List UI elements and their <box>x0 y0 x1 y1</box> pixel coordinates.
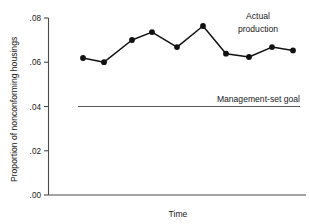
data-point <box>149 29 155 35</box>
y-tick-label-04: .04 <box>30 103 42 112</box>
y-tick-label-08: .08 <box>30 14 42 23</box>
data-point <box>101 59 107 65</box>
y-tick-label-02: .02 <box>30 147 42 156</box>
actual-production-label-line2: production <box>238 24 278 34</box>
management-goal-label: Management-set goal <box>217 94 300 104</box>
data-point <box>290 48 296 54</box>
actual-production-label-line1: Actual <box>246 11 270 21</box>
chart-container: .08 .06 .04 .02 .00 Proportion of noncon… <box>0 0 309 224</box>
data-point <box>223 51 229 57</box>
data-point <box>200 23 206 29</box>
data-point <box>246 54 252 60</box>
data-point <box>80 55 86 61</box>
data-point <box>129 37 135 43</box>
data-point <box>269 44 275 50</box>
y-tick-label-06: .06 <box>30 58 42 67</box>
y-tick-label-00: .00 <box>30 191 42 200</box>
chart-svg: .08 .06 .04 .02 .00 Proportion of noncon… <box>0 0 309 224</box>
data-point <box>174 44 180 50</box>
y-axis-title: Proportion of nonconforming housings <box>9 37 19 182</box>
x-axis-title: Time <box>169 209 188 219</box>
